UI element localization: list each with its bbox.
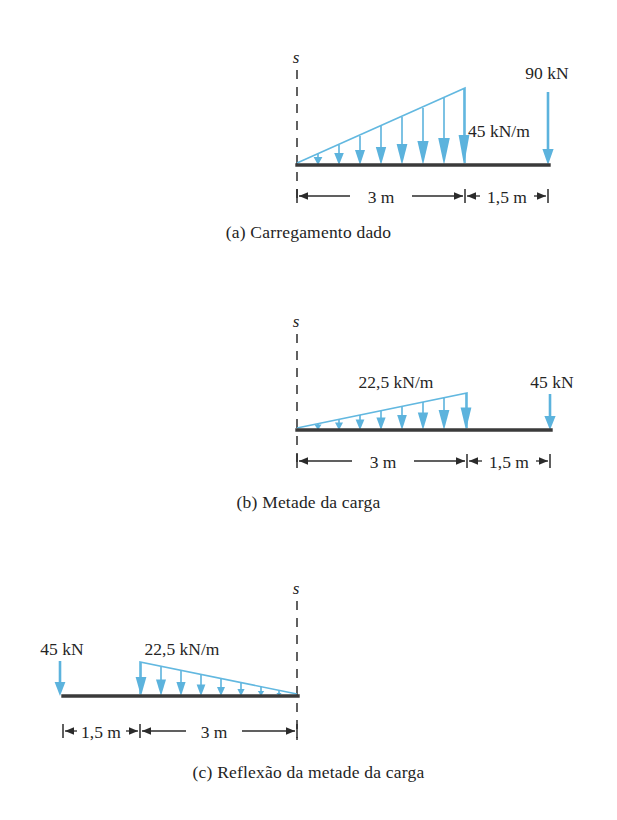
panel-b: s (293, 312, 574, 472)
caption-panel-c: (c) Reflexão da metade da carga (0, 762, 617, 783)
distributed-load-arrows-a (314, 89, 470, 165)
caption-panel-b: (b) Metade da carga (0, 492, 617, 513)
axis-label-s-a: s (293, 48, 300, 67)
distributed-load-arrows-c (136, 663, 282, 696)
point-load-arrow-b (544, 394, 555, 430)
point-load-label-c: 45 kN (40, 639, 84, 659)
caption-panel-a: (a) Carregamento dado (0, 222, 617, 243)
dimension-label-a-span: 3 m (368, 187, 395, 207)
beam-loading-figure: s (0, 0, 617, 820)
point-load-arrow-c (55, 661, 66, 696)
point-load-arrow-a (542, 92, 553, 165)
distributed-load-arrows-b (314, 393, 471, 430)
point-load-label-b: 45 kN (530, 372, 574, 392)
dimension-label-a-overhang: 1,5 m (487, 187, 527, 207)
dimension-line-a: 3 m 1,5 m (297, 187, 548, 207)
distributed-load-label-a: 45 kN/m (468, 121, 530, 141)
panel-c: s (40, 579, 299, 742)
point-load-label-a: 90 kN (525, 63, 569, 83)
axis-label-s-b: s (293, 312, 300, 331)
dimension-label-b-overhang: 1,5 m (489, 452, 529, 472)
distributed-load-label-b: 22,5 kN/m (359, 372, 434, 392)
dimension-label-b-span: 3 m (370, 452, 397, 472)
panel-a: s (293, 48, 569, 207)
axis-label-s-c: s (293, 579, 300, 598)
distributed-load-label-c: 22,5 kN/m (145, 639, 220, 659)
dimension-label-c-overhang: 1,5 m (81, 722, 121, 742)
dimension-label-c-span: 3 m (201, 722, 228, 742)
dimension-line-c: 1,5 m 3 m (63, 722, 297, 742)
dimension-line-b: 3 m 1,5 m (297, 452, 550, 472)
